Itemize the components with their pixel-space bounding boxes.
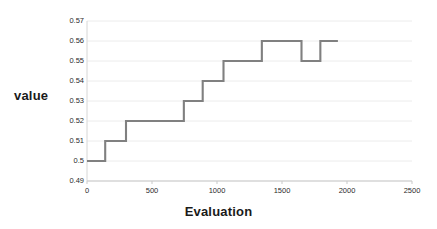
x-tick-label: 0 [85, 187, 89, 195]
x-tick-label: 1000 [209, 187, 226, 195]
x-tick-label: 500 [146, 187, 159, 195]
line-chart: value 0.490.50.510.520.530.540.550.560.5… [0, 0, 437, 229]
x-tick-label: 1500 [274, 187, 291, 195]
gridlines [87, 21, 412, 181]
x-tick-label: 2500 [404, 187, 421, 195]
x-tick-label: 2000 [339, 187, 356, 195]
x-axis-title: Evaluation [0, 204, 437, 219]
